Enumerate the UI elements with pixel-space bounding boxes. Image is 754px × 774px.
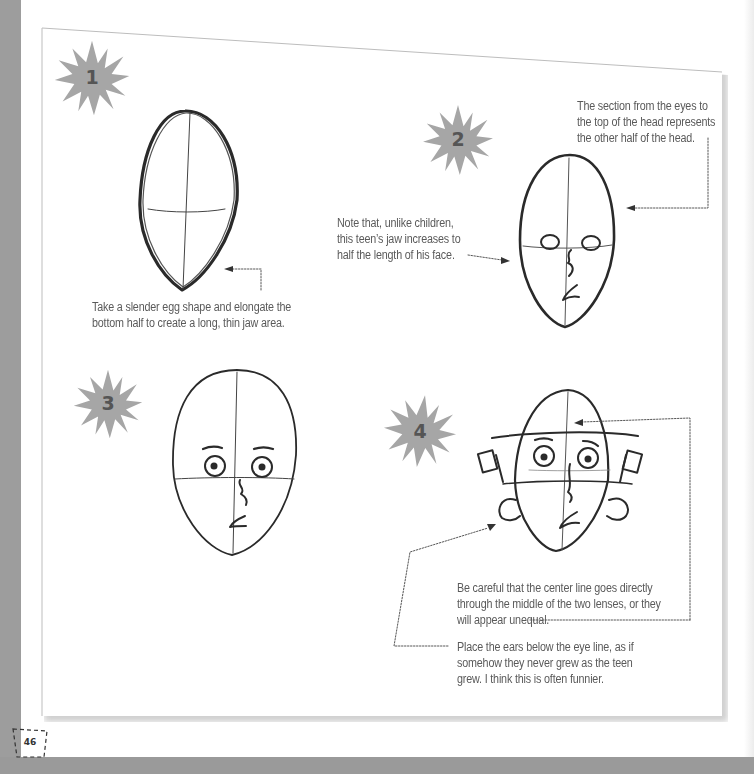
- step-1-egg-sketch: [140, 111, 237, 290]
- step-4-caption-ears: Place the ears below the eye line, as if…: [457, 639, 634, 687]
- step-4-head-sketch: [478, 390, 642, 551]
- step-3-head-sketch: [173, 370, 296, 555]
- step-4-caption-lenses: Be careful that the center line goes dir…: [457, 580, 661, 628]
- page-number: 46: [12, 737, 48, 747]
- arrow-head-icon: [487, 524, 496, 531]
- step-2-caption-jaw: Note that, unlike children, this teen’s …: [337, 215, 460, 263]
- arrow-head-icon: [501, 257, 510, 264]
- step-2-head-sketch: [520, 155, 614, 327]
- step-1-caption: Take a slender egg shape and elongate th…: [92, 299, 291, 331]
- arrow-head-icon: [224, 266, 233, 272]
- step-1-callout-arrow: [232, 269, 261, 290]
- step-2-callout-arrows: [468, 138, 708, 260]
- arrow-head-icon: [574, 419, 583, 426]
- step-2-caption-top: The section from the eyes to the top of …: [577, 98, 715, 146]
- arrow-head-icon: [626, 205, 635, 211]
